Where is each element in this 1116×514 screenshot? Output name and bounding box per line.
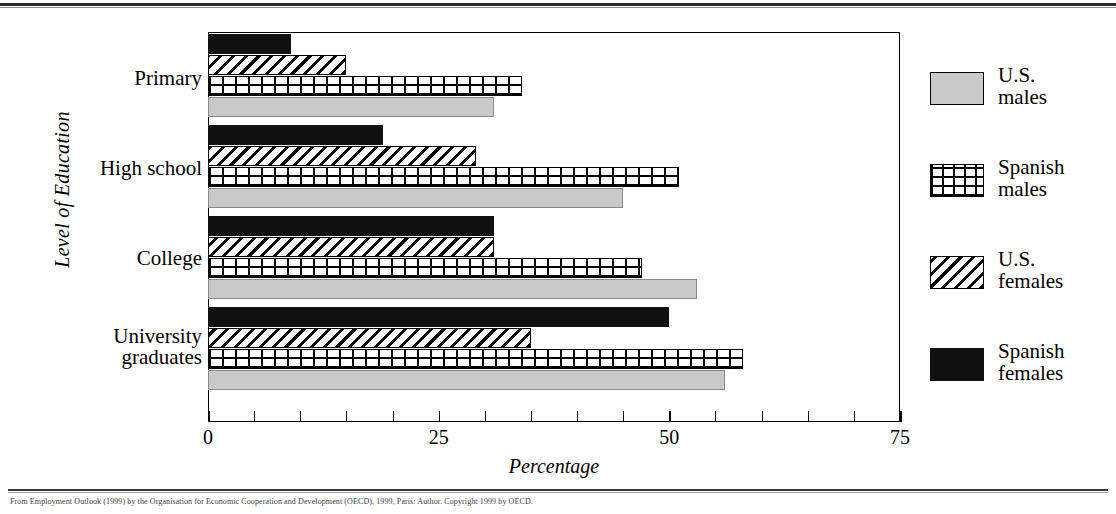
bar-primary-spanish-males	[208, 76, 522, 96]
x-tick-label-25: 25	[409, 426, 469, 449]
x-tick-major-0	[208, 411, 210, 422]
source-caption: From Employment Outlook (1999) by the Or…	[10, 498, 1106, 507]
grid-swatch	[930, 164, 984, 197]
x-tick-minor-10	[300, 411, 301, 422]
bar-university-graduates-spanish-males	[208, 349, 743, 369]
legend-label-us-females: U.S. females	[998, 248, 1063, 292]
x-tick-minor-15	[346, 411, 347, 422]
bar-high-school-us-females	[208, 146, 476, 166]
bar-high-school-spanish-females	[208, 125, 383, 145]
bottom-divider-rule-thin	[8, 492, 1108, 493]
black-swatch	[930, 348, 984, 381]
category-label-college: College	[12, 248, 202, 269]
bar-chart-figure: Level of Education Primary High school C…	[0, 8, 1116, 468]
hatch-swatch	[930, 256, 984, 289]
x-tick-minor-45	[623, 411, 624, 422]
gray-swatch	[930, 72, 984, 105]
x-tick-minor-20	[393, 411, 394, 422]
legend-label-us-males: U.S. males	[998, 64, 1047, 108]
bar-college-spanish-females	[208, 216, 494, 236]
bar-primary-us-females	[208, 55, 346, 75]
x-tick-minor-5	[254, 411, 255, 422]
bar-primary-spanish-females	[208, 34, 291, 54]
legend-item-spanish-males: Spanish males	[930, 160, 1116, 220]
bar-university-graduates-spanish-females	[208, 307, 669, 327]
legend-label-spanish-females: Spanish females	[998, 340, 1065, 384]
legend-item-us-females: U.S. females	[930, 252, 1116, 312]
category-label-university-graduates: University graduates	[12, 326, 202, 369]
x-axis-title: Percentage	[208, 455, 900, 478]
bar-high-school-us-males	[208, 188, 623, 208]
x-tick-minor-30	[485, 411, 486, 422]
x-tick-label-75: 75	[870, 426, 930, 449]
bar-college-us-females	[208, 237, 494, 257]
x-tick-minor-40	[577, 411, 578, 422]
x-tick-minor-65	[808, 411, 809, 422]
top-divider-rule	[0, 3, 1116, 6]
category-label-high-school: High school	[12, 158, 202, 179]
x-tick-label-0: 0	[178, 426, 238, 449]
x-tick-label-50: 50	[639, 426, 699, 449]
bar-high-school-spanish-males	[208, 167, 679, 187]
legend-item-spanish-females: Spanish females	[930, 344, 1116, 404]
bar-primary-us-males	[208, 97, 494, 117]
bar-college-us-males	[208, 279, 697, 299]
bar-university-graduates-us-females	[208, 328, 531, 348]
bottom-divider-rule	[8, 489, 1108, 491]
y-axis-title: Level of Education	[51, 70, 74, 310]
x-tick-minor-70	[854, 411, 855, 422]
x-tick-minor-35	[531, 411, 532, 422]
bar-college-spanish-males	[208, 258, 642, 278]
legend-item-us-males: U.S. males	[930, 68, 1116, 128]
legend-label-spanish-males: Spanish males	[998, 156, 1065, 200]
x-tick-major-75	[900, 411, 902, 422]
x-tick-minor-60	[762, 411, 763, 422]
x-tick-minor-55	[715, 411, 716, 422]
x-tick-major-25	[439, 411, 441, 422]
category-label-primary: Primary	[12, 68, 202, 89]
x-tick-major-50	[669, 411, 671, 422]
bar-university-graduates-us-males	[208, 370, 725, 390]
